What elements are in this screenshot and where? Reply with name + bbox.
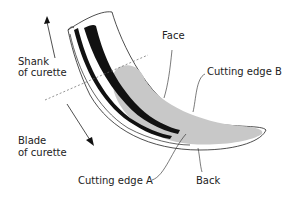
shank-label-line2: of curette bbox=[18, 67, 67, 79]
blade-label-line2: of curette bbox=[18, 147, 67, 159]
curette-diagram: Shank of curette Blade of curette Face C… bbox=[0, 0, 296, 198]
shank-arrow bbox=[47, 22, 55, 58]
cutting-edge-b-leader bbox=[193, 74, 205, 112]
back-label: Back bbox=[196, 175, 220, 187]
face-label: Face bbox=[162, 30, 185, 42]
face-leader bbox=[164, 50, 172, 98]
blade-label-line1: Blade bbox=[18, 135, 46, 147]
cutting-edge-b-label: Cutting edge B bbox=[207, 66, 282, 78]
blade-arrow bbox=[67, 104, 90, 140]
cutting-edge-a-label: Cutting edge A bbox=[78, 175, 153, 187]
curette-illustration bbox=[0, 0, 296, 198]
arrow-up-icon bbox=[44, 16, 50, 24]
arrow-down-icon bbox=[86, 137, 94, 146]
back-leader bbox=[198, 148, 202, 172]
